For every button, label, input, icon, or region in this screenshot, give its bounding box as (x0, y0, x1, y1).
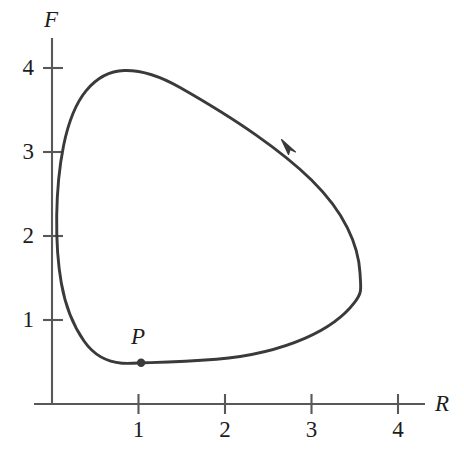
x-axis-label: R (435, 392, 449, 415)
point-p-label: P (131, 325, 145, 348)
plot-canvas (0, 0, 464, 473)
x-tick-label-3: 3 (297, 418, 327, 441)
limit-cycle-curve (57, 70, 361, 363)
y-tick-label-2: 2 (8, 224, 34, 247)
x-tick-label-2: 2 (210, 418, 240, 441)
y-tick-label-4: 4 (8, 56, 34, 79)
phase-plane-figure: 1 2 3 4 1 2 3 4 F R P (0, 0, 464, 473)
x-tick-label-1: 1 (124, 418, 154, 441)
direction-arrow-icon (282, 140, 296, 155)
y-tick-label-1: 1 (8, 308, 34, 331)
x-tick-label-4: 4 (383, 418, 413, 441)
y-tick-label-3: 3 (8, 140, 34, 163)
y-axis-label: F (44, 8, 58, 31)
point-p-marker (137, 359, 145, 367)
